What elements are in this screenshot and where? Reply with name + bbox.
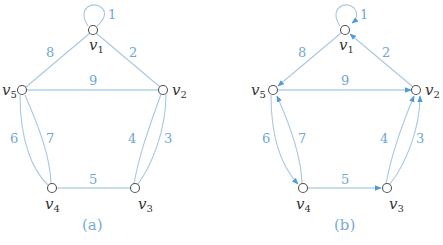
edge-a-6 (20, 95, 48, 185)
edge-b-8 (278, 33, 341, 86)
edge-b-2 (350, 34, 413, 87)
weight-a-5: 5 (89, 172, 97, 187)
weight-a-4: 4 (128, 131, 136, 146)
caption-a: (a) (82, 216, 103, 234)
edge-b-1-loop (336, 5, 357, 26)
vertex-label-a-v5: v5 (2, 81, 17, 100)
weight-b-4: 4 (380, 131, 388, 146)
edge-a-4 (134, 94, 161, 184)
weight-b-5: 5 (341, 172, 349, 187)
weight-a-1: 1 (108, 7, 116, 22)
weight-a-6: 6 (10, 131, 18, 146)
weight-a-7: 7 (46, 131, 54, 146)
vertex-a-v2 (159, 86, 168, 95)
graph-a: 1 2 3 4 5 6 7 8 9 v1 v2 v3 v4 v5 (a) (2, 5, 187, 234)
vertex-label-b-v1: v1 (339, 36, 354, 55)
diagram-canvas: 1 2 3 4 5 6 7 8 9 v1 v2 v3 v4 v5 (a) (0, 0, 443, 245)
weight-a-9: 9 (89, 73, 97, 88)
vertex-label-b-v5: v5 (251, 81, 266, 100)
weight-b-6: 6 (262, 131, 270, 146)
weight-a-2: 2 (129, 45, 137, 60)
weight-b-3: 3 (416, 131, 424, 146)
edge-a-8 (26, 33, 90, 87)
weight-b-8: 8 (298, 45, 306, 60)
vertex-label-a-v3: v3 (138, 195, 153, 214)
caption-b: (b) (334, 216, 355, 234)
vertex-label-b-v3: v3 (389, 195, 404, 214)
edge-b-4 (386, 96, 414, 184)
graph-b: 1 2 3 4 5 6 7 8 9 v1 v2 v3 v4 v5 (b) (251, 5, 440, 234)
vertex-label-b-v4: v4 (296, 195, 311, 214)
vertex-b-v3 (383, 184, 392, 193)
vertex-b-v2 (412, 86, 421, 95)
vertex-label-a-v2: v2 (172, 81, 187, 100)
vertex-b-v1 (341, 26, 350, 35)
vertex-a-v1 (89, 26, 98, 35)
vertex-a-v3 (131, 184, 140, 193)
weight-b-7: 7 (298, 131, 306, 146)
weight-a-3: 3 (164, 131, 172, 146)
vertex-a-v4 (48, 184, 57, 193)
vertex-label-a-v1: v1 (89, 36, 104, 55)
edge-a-3 (138, 94, 166, 184)
weight-b-9: 9 (341, 73, 349, 88)
vertex-b-v5 (269, 86, 278, 95)
vertex-label-b-v2: v2 (425, 81, 440, 100)
weight-b-2: 2 (382, 45, 390, 60)
vertex-label-a-v4: v4 (45, 195, 60, 214)
vertex-b-v4 (299, 184, 308, 193)
edge-a-1-loop (84, 5, 105, 26)
edge-a-2 (96, 33, 160, 87)
weight-a-8: 8 (46, 45, 54, 60)
vertex-a-v5 (18, 86, 27, 95)
weight-b-1: 1 (360, 7, 368, 22)
